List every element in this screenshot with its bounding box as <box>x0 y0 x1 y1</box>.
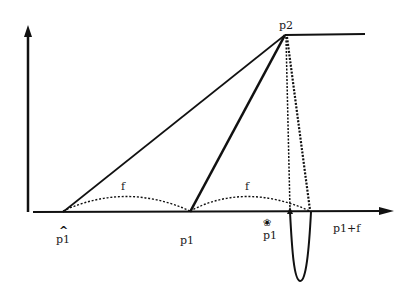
p2-horizontal-line <box>285 34 365 35</box>
label-f-left: f <box>121 181 125 192</box>
arc-f-left <box>63 197 190 212</box>
arc-f-right <box>190 197 310 212</box>
line-p1hat-to-p2 <box>63 35 285 212</box>
diagram-svg <box>0 0 414 296</box>
label-f-right: f <box>245 181 249 192</box>
line-p1mid-to-p2 <box>190 35 285 212</box>
diagram-canvas: p2 f f ^ p1 p1 ❀ p1 p1+f <box>0 0 414 296</box>
label-p1-hat: p1 <box>56 234 70 245</box>
dotted-drop-p1plusf <box>287 37 310 210</box>
loop-curve <box>290 212 311 281</box>
x-axis <box>33 211 382 212</box>
label-p1-star: p1 <box>263 230 277 241</box>
label-p1-plus-f: p1+f <box>333 223 360 234</box>
y-axis-arrow-icon <box>24 25 32 37</box>
star-icon: ❀ <box>263 218 271 228</box>
label-p1-mid: p1 <box>180 235 194 246</box>
x-axis-arrow-icon <box>379 207 394 215</box>
label-p2: p2 <box>279 20 293 31</box>
